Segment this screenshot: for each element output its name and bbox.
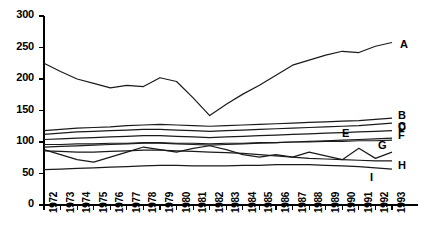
- x-axis-tick-label: 1986: [280, 192, 291, 213]
- series-label-e: E: [342, 127, 349, 139]
- x-axis-tick-label: 1987: [297, 192, 308, 213]
- x-axis-tick-label: 1983: [230, 192, 241, 213]
- x-axis-tick-label: 1991: [363, 192, 374, 213]
- series-line-b: [44, 118, 392, 131]
- x-axis-tick-label: 1977: [131, 192, 142, 213]
- series-line-a: [44, 42, 392, 115]
- series-line-h: [44, 150, 392, 161]
- axis-lines: [44, 16, 418, 205]
- x-axis-tick-label: 1982: [214, 192, 225, 213]
- series-label-h: H: [398, 159, 406, 171]
- x-axis-tick-label: 1976: [114, 192, 125, 213]
- x-axis-tick-label: 1989: [330, 192, 341, 213]
- x-axis-tick-label: 1992: [379, 192, 390, 213]
- y-axis-tick-label: 250: [4, 40, 34, 52]
- y-axis-tick-label: 200: [4, 71, 34, 83]
- series-label-g: G: [378, 139, 387, 151]
- x-axis-tick-label: 1993: [396, 192, 407, 213]
- x-axis-tick-label: 1973: [65, 192, 76, 213]
- x-axis-tick-label: 1988: [313, 192, 324, 213]
- y-axis-tick-label: 150: [4, 103, 34, 115]
- y-axis-tick-label: 0: [4, 197, 34, 209]
- series-line-f: [44, 138, 392, 147]
- series-line-i: [44, 165, 392, 170]
- x-axis-tick-label: 1985: [263, 192, 274, 213]
- y-axis-tick-label: 100: [4, 134, 34, 146]
- x-axis-tick-label: 1975: [98, 192, 109, 213]
- series-label-i: I: [370, 171, 373, 183]
- y-axis-tick-label: 50: [4, 166, 34, 178]
- y-axis-tick-label: 300: [4, 8, 34, 20]
- x-axis-tick-label: 1978: [147, 192, 158, 213]
- series-label-f: F: [398, 129, 405, 141]
- x-axis-tick-label: 1972: [48, 192, 59, 213]
- line-chart: 3002502001501005001972197319741975197619…: [0, 0, 426, 244]
- x-axis-tick-label: 1980: [181, 192, 192, 213]
- x-axis-tick-label: 1979: [164, 192, 175, 213]
- x-axis-tick-label: 1990: [346, 192, 357, 213]
- series-label-a: A: [400, 38, 408, 50]
- series-line-d: [44, 131, 392, 140]
- x-axis-tick-label: 1984: [247, 192, 258, 213]
- x-axis-tick-label: 1981: [197, 192, 208, 213]
- x-axis-tick-label: 1974: [81, 192, 92, 213]
